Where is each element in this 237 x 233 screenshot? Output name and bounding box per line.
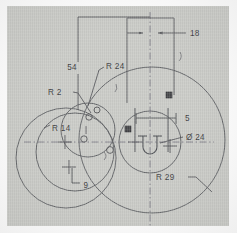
radius-14-label: R 14 xyxy=(52,124,71,133)
dim-9-label: 9 xyxy=(84,181,89,190)
tick-mark-mid-left xyxy=(115,84,117,92)
marker-square-upper-right xyxy=(166,92,172,98)
dimension-9 xyxy=(72,168,80,183)
r2-leader-tick xyxy=(73,92,78,93)
hole-right xyxy=(107,147,114,154)
radius-24-label: R 24 xyxy=(106,62,125,71)
dim9-bracket xyxy=(72,168,80,183)
dim-18-label: 18 xyxy=(190,29,200,38)
r24-leader-line xyxy=(88,70,99,106)
boss-outline xyxy=(135,108,168,152)
hole-top xyxy=(94,107,100,113)
d24-leader-line xyxy=(160,137,183,143)
tick-mark-lower-mid xyxy=(104,152,106,160)
radius-29-label: R 29 xyxy=(156,173,175,182)
dim-54-label: 54 xyxy=(67,63,77,72)
hole-lower xyxy=(81,136,87,142)
hatch-marks xyxy=(86,126,142,142)
reference-markers xyxy=(125,92,172,132)
radius-2-label: R 2 xyxy=(48,88,62,97)
r24-leader-tick xyxy=(99,67,104,70)
dim-5-label: 5 xyxy=(185,114,190,123)
technical-drawing-canvas: 54 18 R 24 R 2 R 14 9 xyxy=(0,0,237,233)
technical-drawing-viewport: 54 18 R 24 R 2 R 14 9 xyxy=(0,0,237,233)
diameter-24-label: Ø 24 xyxy=(186,133,205,142)
marker-square-center-left xyxy=(125,126,131,132)
left-inner-circle-r14 xyxy=(36,113,114,191)
dimension-18 xyxy=(127,18,186,103)
leader-r29 xyxy=(188,177,212,192)
tick-mark-top-right xyxy=(179,52,181,61)
leader-diameter-24 xyxy=(160,137,183,143)
leader-r2 xyxy=(73,92,91,113)
